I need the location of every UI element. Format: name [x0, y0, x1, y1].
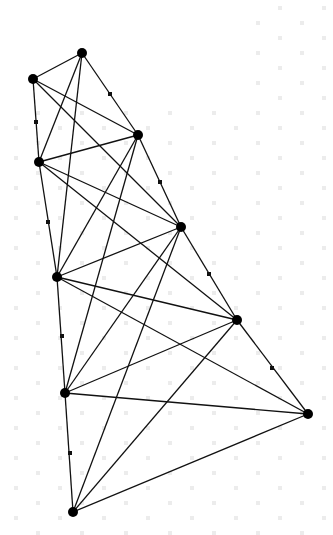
waypoint-G-I	[270, 366, 274, 370]
waypoint-C-E	[158, 180, 162, 184]
node-A	[77, 48, 87, 58]
graph-diagram	[0, 0, 333, 535]
waypoint-E-G	[207, 272, 211, 276]
node-H	[60, 388, 70, 398]
waypoint-B-D	[34, 120, 38, 124]
edge-A-B	[33, 53, 82, 79]
waypoint-A-C	[108, 92, 112, 96]
node-F	[52, 272, 62, 282]
node-D	[34, 157, 44, 167]
node-C	[133, 130, 143, 140]
watermark-background	[0, 0, 333, 535]
waypoint-D-F	[46, 220, 50, 224]
node-G	[232, 315, 242, 325]
node-J	[68, 507, 78, 517]
node-E	[176, 222, 186, 232]
node-I	[303, 409, 313, 419]
node-B	[28, 74, 38, 84]
waypoint-H-J	[68, 451, 72, 455]
waypoint-F-H	[60, 334, 64, 338]
